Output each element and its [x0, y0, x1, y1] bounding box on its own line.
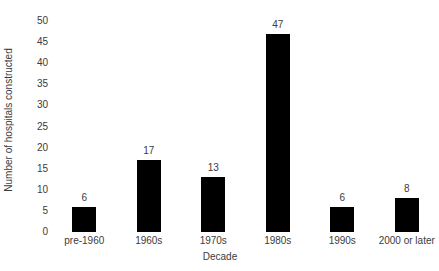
- y-axis-tick-30: 30: [37, 100, 48, 110]
- x-axis-tick-label: 2000 or later: [379, 236, 435, 246]
- x-axis-tick-label: 1970s: [200, 236, 227, 246]
- bar: [72, 207, 96, 232]
- y-axis-tick-25: 25: [37, 122, 48, 132]
- y-axis-tick-0: 0: [42, 227, 48, 237]
- y-axis-title: Number of hospitals constructed: [0, 0, 18, 240]
- y-axis-tick-35: 35: [37, 79, 48, 89]
- x-axis-tick-label: 1980s: [264, 236, 291, 246]
- bar: [201, 177, 225, 232]
- bar: [137, 160, 161, 232]
- plot-area: 617134768: [52, 0, 439, 232]
- y-axis-tick-5: 5: [42, 206, 48, 216]
- bar: [395, 198, 419, 232]
- bar: [266, 34, 290, 232]
- bar-value-label: 8: [404, 184, 410, 194]
- y-axis-tick-45: 45: [37, 37, 48, 47]
- bar-group: 8: [375, 0, 439, 232]
- bar: [330, 207, 354, 232]
- x-axis-tick-label: 1960s: [135, 236, 162, 246]
- x-axis-tick-label: 1990s: [329, 236, 356, 246]
- y-axis-tick-10: 10: [37, 185, 48, 195]
- y-axis-tick-40: 40: [37, 58, 48, 68]
- bar-group: 13: [181, 0, 246, 232]
- y-axis-tick-20: 20: [37, 143, 48, 153]
- bar-value-label: 47: [272, 20, 283, 30]
- y-axis-tick-50: 50: [37, 16, 48, 26]
- bar-group: 17: [117, 0, 182, 232]
- y-axis-title-text: Number of hospitals constructed: [4, 48, 14, 191]
- x-axis-tick-labels: pre-19601960s1970s1980s1990s2000 or late…: [52, 232, 439, 252]
- y-axis-tick-labels: 05101520253035404550: [18, 0, 52, 271]
- bar-group: 47: [246, 0, 311, 232]
- y-axis-tick-15: 15: [37, 164, 48, 174]
- bar-value-label: 13: [208, 163, 219, 173]
- bar-group: 6: [310, 0, 375, 232]
- bar-value-label: 17: [143, 146, 154, 156]
- x-axis-tick-label: pre-1960: [64, 236, 104, 246]
- bar-group: 6: [52, 0, 117, 232]
- x-axis-title: Decade: [52, 252, 388, 262]
- bar-value-label: 6: [81, 193, 87, 203]
- bar-chart: Number of hospitals constructed 05101520…: [0, 0, 439, 271]
- bar-value-label: 6: [339, 193, 345, 203]
